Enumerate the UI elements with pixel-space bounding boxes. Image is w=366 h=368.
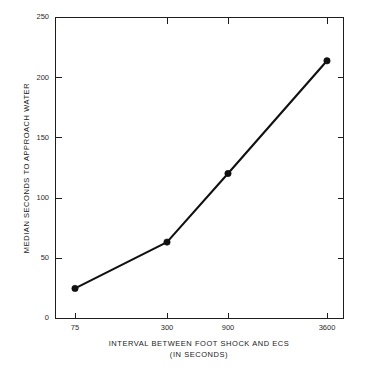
data-point-300: [164, 239, 170, 245]
y-tick-label-0: 0: [45, 313, 49, 322]
y-axis-ticks: [56, 18, 62, 319]
y-tick-label-200: 200: [36, 73, 49, 82]
y-axis-title: MEDIAN SECONDS TO APPROACH WATER: [22, 83, 31, 253]
x-axis-title: INTERVAL BETWEEN FOOT SHOCK AND ECS: [109, 339, 290, 348]
y-tick-label-250: 250: [36, 12, 49, 21]
y-tick-label-100: 100: [36, 193, 49, 202]
x-axis-ticks-top: [167, 18, 327, 24]
y-tick-label-50: 50: [41, 253, 49, 262]
data-markers: [72, 58, 330, 292]
y-tick-label-150: 150: [36, 133, 49, 142]
x-tick-label-900: 900: [222, 323, 235, 332]
line-chart: 0 50 100 150 200 250 75 300 900 3600 MED…: [0, 0, 366, 368]
data-point-75: [72, 285, 78, 291]
plot-frame: [56, 18, 344, 319]
chart-figure: 0 50 100 150 200 250 75 300 900 3600 MED…: [0, 0, 366, 368]
x-tick-label-300: 300: [161, 323, 174, 332]
data-point-900: [225, 170, 231, 176]
x-tick-label-75: 75: [71, 323, 79, 332]
x-tick-label-3600: 3600: [319, 323, 336, 332]
data-point-3600: [324, 58, 330, 64]
y-axis-ticks-right: [338, 78, 344, 259]
x-axis-title-units: (IN SECONDS): [170, 350, 228, 359]
x-axis-ticks: [75, 313, 327, 319]
data-series-line: [75, 61, 327, 289]
